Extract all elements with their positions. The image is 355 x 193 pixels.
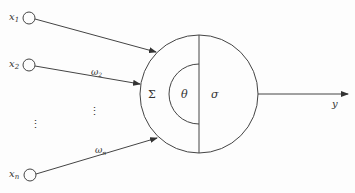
input-circle-x1 xyxy=(23,12,35,24)
input-circle-xn xyxy=(24,169,36,181)
sum-symbol: Σ xyxy=(148,88,156,101)
input-node-x1: x1 xyxy=(9,11,35,24)
input-node-x2: x2 xyxy=(9,58,35,71)
weight-label-w2: ω2 xyxy=(91,67,102,78)
output-label-y: y xyxy=(331,98,338,109)
input-label-x2: x2 xyxy=(9,58,20,71)
connection-xn xyxy=(36,138,157,174)
ellipsis-inputs: ⋮ xyxy=(30,118,41,131)
connection-x1 xyxy=(35,19,156,52)
weight-label-wn: ωn xyxy=(95,145,106,156)
threshold-symbol: θ xyxy=(181,88,188,101)
input-label-x1: x1 xyxy=(9,11,19,24)
input-circle-x2 xyxy=(23,59,35,71)
activation-symbol: σ xyxy=(211,88,219,101)
neuron-diagram: x1 x2 ω2 ⋮ ⋮ xn ωn Σ θ σ y xyxy=(0,0,355,193)
input-label-xn: xn xyxy=(9,168,20,181)
ellipsis-weights: ⋮ xyxy=(89,105,100,118)
input-node-xn: xn xyxy=(9,168,36,181)
connection-x2 xyxy=(35,66,140,84)
neuron-body: Σ θ σ xyxy=(140,35,258,153)
